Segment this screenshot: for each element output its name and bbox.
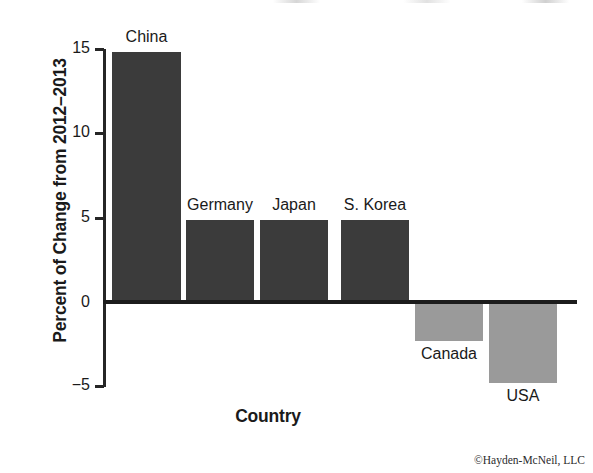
y-tick-label-15-wrap: 15 — [42, 40, 90, 56]
y-tick-label-5-wrap: 5 — [42, 209, 90, 225]
bar-label-japan: Japan — [258, 196, 330, 214]
y-tick-label-10-wrap: 10 — [42, 124, 90, 140]
bar-label-germany: Germany — [180, 196, 260, 214]
bar-label-canada: Canada — [412, 345, 486, 363]
bar-label-china: China — [112, 28, 181, 46]
bar-s-korea[interactable] — [341, 220, 409, 302]
y-tick-label-5: 5 — [50, 209, 90, 225]
y-tick-label-0: 0 — [50, 294, 90, 310]
bar-china[interactable] — [112, 52, 181, 302]
copyright-credit: ©Hayden-McNeil, LLC — [474, 454, 585, 466]
y-tick-label-minus5-wrap: −5 — [42, 377, 90, 393]
bar-canada[interactable] — [415, 304, 483, 341]
y-tick-15 — [95, 48, 104, 51]
y-tick-minus5 — [95, 385, 104, 388]
y-tick-label-10: 10 — [50, 124, 90, 140]
bar-usa[interactable] — [489, 304, 557, 383]
bar-germany[interactable] — [186, 220, 254, 302]
bar-japan[interactable] — [260, 220, 328, 302]
bar-chart-figure: Percent of Change from 2012–2013 15 10 5… — [0, 0, 593, 473]
y-tick-label-0-wrap: 0 — [42, 294, 90, 310]
x-axis-title: Country — [103, 406, 433, 427]
plot-area: 15 10 5 0 −5 China Germany Japan S. Kore… — [0, 0, 593, 430]
y-tick-5 — [95, 217, 104, 220]
bar-label-s-korea: S. Korea — [336, 196, 414, 214]
y-tick-label-minus5: −5 — [50, 377, 90, 393]
y-tick-10 — [95, 132, 104, 135]
bar-label-usa: USA — [489, 387, 557, 405]
y-tick-label-15: 15 — [50, 40, 90, 56]
